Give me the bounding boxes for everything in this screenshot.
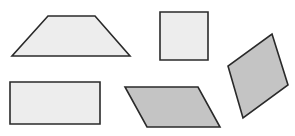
rectangle-shape: [10, 82, 100, 124]
shapes-diagram: [0, 0, 295, 136]
trapezoid-shape: [12, 16, 130, 56]
parallelogram-shape: [125, 87, 220, 127]
rhombus-shape: [228, 34, 288, 118]
square-shape: [160, 12, 208, 60]
